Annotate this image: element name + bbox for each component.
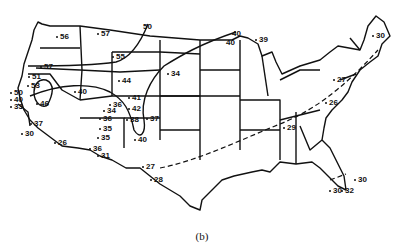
station-value: 30 (376, 32, 385, 40)
station-marker (10, 92, 12, 94)
station-marker (146, 118, 148, 120)
station-marker (97, 33, 99, 35)
station-value: 42 (132, 105, 141, 113)
station-marker (255, 39, 257, 41)
station-marker (28, 76, 30, 78)
station-marker (97, 137, 99, 139)
station-marker (167, 73, 169, 75)
station-marker (128, 97, 130, 99)
station-marker (21, 133, 23, 135)
dashed-contour (160, 50, 378, 180)
station-marker (128, 108, 130, 110)
station-value: 26 (58, 139, 67, 147)
station-value: 56 (60, 33, 69, 41)
state-boundaries (18, 16, 390, 210)
station-marker (99, 118, 101, 120)
station-value: 27 (146, 163, 155, 171)
station-value: 37 (150, 115, 159, 123)
station-marker (126, 119, 128, 121)
station-value: 35 (103, 125, 112, 133)
station-marker (10, 106, 12, 108)
station-value: 51 (32, 73, 41, 81)
station-value: 55 (116, 53, 125, 61)
station-value: 32 (345, 187, 354, 195)
station-value: 29 (287, 124, 296, 132)
station-value: 33 (14, 103, 23, 111)
station-value: 46 (40, 100, 49, 108)
station-marker (333, 79, 335, 81)
station-marker (150, 179, 152, 181)
station-marker (325, 102, 327, 104)
station-marker (103, 110, 105, 112)
station-value: 53 (31, 82, 40, 90)
station-marker (97, 155, 99, 157)
station-marker (372, 35, 374, 37)
station-value: 27 (337, 76, 346, 84)
station-value: 35 (101, 134, 110, 142)
station-value: 38 (130, 116, 139, 124)
station-value: 44 (122, 77, 131, 85)
station-marker (142, 166, 144, 168)
station-marker (329, 190, 331, 192)
station-marker (10, 99, 12, 101)
station-value: 36 (103, 115, 112, 123)
contour-label: 40 (232, 30, 241, 38)
station-value: 39 (259, 36, 268, 44)
station-value: 36 (113, 101, 122, 109)
station-value: 28 (154, 176, 163, 184)
station-marker (54, 142, 56, 144)
station-value: 26 (329, 99, 338, 107)
station-marker (56, 36, 58, 38)
station-marker (27, 85, 29, 87)
figure-caption: (b) (0, 230, 404, 242)
station-value: 34 (171, 70, 180, 78)
station-marker (109, 104, 111, 106)
station-value: 40 (78, 88, 87, 96)
station-marker (99, 128, 101, 130)
station-marker (30, 123, 32, 125)
station-marker (112, 56, 114, 58)
station-marker (283, 127, 285, 129)
station-value: 37 (34, 120, 43, 128)
station-marker (89, 148, 91, 150)
station-value: 41 (132, 94, 141, 102)
station-value: 30 (358, 176, 367, 184)
station-marker (354, 179, 356, 181)
station-marker (36, 103, 38, 105)
station-marker (40, 66, 42, 68)
station-value: 57 (101, 30, 110, 38)
station-marker (341, 190, 343, 192)
station-value: 40 (138, 136, 147, 144)
station-value: 31 (101, 152, 110, 160)
station-value: 30 (25, 130, 34, 138)
station-marker (134, 139, 136, 141)
contour-label: 40 (226, 39, 235, 47)
station-marker (74, 91, 76, 93)
station-marker (118, 80, 120, 82)
station-value: 57 (44, 63, 53, 71)
contour-label: 50 (143, 23, 152, 31)
